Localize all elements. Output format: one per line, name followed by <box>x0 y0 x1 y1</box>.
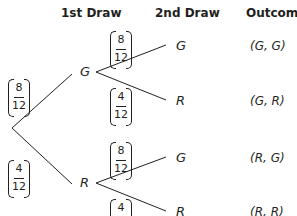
node-second-r-2: R <box>176 204 185 216</box>
node-first-g: G <box>80 64 90 79</box>
node-second-r-1: R <box>176 93 185 108</box>
header-second-draw: 2nd Draw <box>155 6 220 20</box>
prob-first-r: 4 12 <box>8 160 30 198</box>
node-second-g-2: G <box>176 150 186 165</box>
node-first-r: R <box>80 175 89 190</box>
outcome-gr: (G, R) <box>250 94 285 108</box>
prob-g-g: 8 12 <box>110 31 132 69</box>
prob-r-r: 4 12 <box>110 199 132 216</box>
prob-first-g: 8 12 <box>8 79 30 117</box>
outcome-rg: (R, G) <box>250 151 285 165</box>
tree-branches <box>0 0 297 216</box>
outcome-rr: (R, R) <box>250 205 284 216</box>
header-outcome: Outcome <box>246 6 297 20</box>
prob-r-g: 8 12 <box>110 142 132 180</box>
node-second-g-1: G <box>176 38 186 53</box>
header-first-draw: 1st Draw <box>61 6 121 20</box>
prob-g-r: 4 12 <box>110 88 132 126</box>
outcome-gg: (G, G) <box>250 39 286 53</box>
